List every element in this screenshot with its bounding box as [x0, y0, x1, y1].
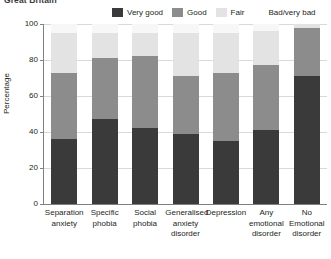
- x-tick-label-line: disorder: [287, 229, 327, 240]
- bar-segment[interactable]: [51, 73, 77, 140]
- bar-stack[interactable]: [132, 24, 158, 204]
- bar-stack[interactable]: [213, 24, 239, 204]
- bar-stack[interactable]: [92, 24, 118, 204]
- y-tick-label: 40: [29, 128, 38, 136]
- x-tick-label-line: anxiety: [165, 219, 205, 230]
- x-axis-labels: SeparationanxietySpecificphobiaSocialpho…: [44, 208, 327, 256]
- x-tick-label-line: Depression: [206, 208, 246, 219]
- x-tick-label-line: phobia: [125, 219, 165, 230]
- y-tick-mark: [40, 132, 44, 133]
- bar-segment[interactable]: [92, 58, 118, 119]
- y-tick-mark: [40, 24, 44, 25]
- bar-segment[interactable]: [173, 76, 199, 134]
- legend-item[interactable]: Very good: [112, 8, 163, 17]
- bar-segment[interactable]: [253, 130, 279, 204]
- y-tick-label: 80: [29, 56, 38, 64]
- y-tick-mark: [40, 168, 44, 169]
- bar-segment[interactable]: [132, 33, 158, 56]
- x-tick-label: Depression: [206, 208, 246, 219]
- bar-segment[interactable]: [213, 73, 239, 141]
- bar-stack[interactable]: [173, 24, 199, 204]
- x-tick-label-line: Generalised: [165, 208, 205, 219]
- bar-segment[interactable]: [173, 33, 199, 76]
- bar-segment[interactable]: [253, 24, 279, 31]
- x-tick-label: Socialphobia: [125, 208, 165, 229]
- x-tick-label: Specificphobia: [84, 208, 124, 229]
- legend-item[interactable]: Bad/very bad: [253, 8, 315, 17]
- bar-segment[interactable]: [253, 31, 279, 65]
- legend-swatch-icon: [172, 8, 183, 17]
- y-tick-label: 100: [25, 20, 38, 28]
- x-tick-label-line: disorder: [246, 229, 286, 240]
- bar-segment[interactable]: [132, 56, 158, 128]
- y-tick-label: 20: [29, 164, 38, 172]
- y-axis-title: Percentage: [2, 73, 11, 114]
- bar-stack[interactable]: [51, 24, 77, 204]
- legend-item[interactable]: Good: [172, 8, 207, 17]
- x-tick-label-line: No Emotional: [287, 208, 327, 229]
- legend-item[interactable]: Fair: [216, 8, 245, 17]
- bar-segment[interactable]: [92, 119, 118, 204]
- x-tick-label-line: Social: [125, 208, 165, 219]
- chart-legend: Very goodGoodFairBad/very bad: [112, 7, 316, 18]
- bars-layer: [44, 24, 327, 204]
- bar-segment[interactable]: [92, 24, 118, 33]
- bar-segment[interactable]: [294, 28, 320, 77]
- bar-segment[interactable]: [213, 141, 239, 204]
- x-tick-label: Anyemotionaldisorder: [246, 208, 286, 240]
- legend-item-label: Very good: [127, 8, 163, 17]
- bar-segment[interactable]: [51, 24, 77, 33]
- bar-segment[interactable]: [51, 139, 77, 204]
- y-tick-mark: [40, 96, 44, 97]
- x-tick-label-line: Specific: [84, 208, 124, 219]
- plot-area: 020406080100: [44, 24, 327, 204]
- x-tick-label: No Emotionaldisorder: [287, 208, 327, 240]
- y-tick-label: 60: [29, 92, 38, 100]
- bar-segment[interactable]: [92, 33, 118, 58]
- bar-segment[interactable]: [132, 24, 158, 33]
- y-tick-label: 0: [34, 200, 38, 208]
- bar-stack[interactable]: [253, 24, 279, 204]
- x-tick-label-line: Separation: [44, 208, 84, 219]
- x-tick-label-line: Any: [246, 208, 286, 219]
- legend-item-label: Bad/very bad: [268, 8, 315, 17]
- legend-item-label: Good: [187, 8, 207, 17]
- x-axis-line: [43, 204, 327, 205]
- bar-segment[interactable]: [294, 24, 320, 28]
- bar-segment[interactable]: [173, 134, 199, 204]
- chart-caption: Great Britain: [4, 0, 57, 5]
- x-tick-label-line: anxiety: [44, 219, 84, 230]
- legend-swatch-icon: [216, 8, 227, 17]
- x-tick-label-line: emotional: [246, 219, 286, 230]
- bar-segment[interactable]: [51, 33, 77, 73]
- x-tick-label: Separationanxiety: [44, 208, 84, 229]
- legend-swatch-icon: [112, 8, 123, 17]
- bar-segment[interactable]: [253, 65, 279, 130]
- bar-stack[interactable]: [294, 24, 320, 204]
- y-tick-mark: [40, 204, 44, 205]
- bar-segment[interactable]: [132, 128, 158, 204]
- bar-segment[interactable]: [173, 24, 199, 33]
- x-tick-label-line: disorder: [165, 229, 205, 240]
- bar-segment[interactable]: [213, 33, 239, 73]
- bar-segment[interactable]: [213, 24, 239, 33]
- bar-segment[interactable]: [294, 76, 320, 204]
- y-tick-mark: [40, 60, 44, 61]
- legend-item-label: Fair: [231, 8, 245, 17]
- x-tick-label-line: phobia: [84, 219, 124, 230]
- x-tick-label: Generalisedanxietydisorder: [165, 208, 205, 240]
